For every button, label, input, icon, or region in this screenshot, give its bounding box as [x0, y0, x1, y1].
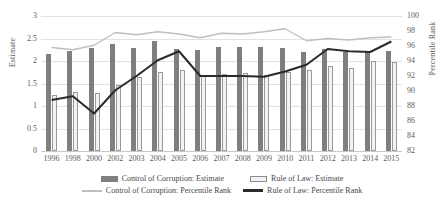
plot-area: 32.521.510.50100989694929088868482 [41, 16, 402, 151]
legend-item-cc-percentile[interactable]: Control of Corruption: Percentile Rank [82, 186, 231, 195]
legend-swatch-bar-light-icon [250, 176, 267, 182]
x-axis-tick-label: 1996 [41, 154, 62, 163]
y-axis-left-tick: 3 [33, 12, 37, 20]
legend-row-1: Control of Corruption: Estimate Rule of … [101, 174, 344, 183]
x-axis-tick-label: 2013 [338, 154, 359, 163]
y-axis-left-tick: 0 [33, 147, 37, 155]
x-axis-tick-label: 2011 [296, 154, 317, 163]
legend-row-2: Control of Corruption: Percentile Rank R… [82, 186, 362, 195]
x-axis-tick-label: 2008 [232, 154, 253, 163]
y-axis-right-tick: 98 [407, 27, 415, 35]
chart-container: Estimate Percentile Rank 32.521.510.5010… [0, 0, 444, 222]
x-axis-tick-label: 2014 [360, 154, 381, 163]
legend-label-rol-estimate: Rule of Law: Estimate [271, 174, 343, 183]
x-axis-tick-label: 2012 [317, 154, 338, 163]
y-axis-right-tick: 94 [407, 57, 415, 65]
x-axis-tick-label: 2006 [190, 154, 211, 163]
line-series [52, 29, 392, 50]
x-axis-tick-label: 2010 [275, 154, 296, 163]
y-axis-right-title: Percentile Rank [428, 11, 437, 87]
x-axis-tick-label: 2000 [83, 154, 104, 163]
legend-label-cc-percentile: Control of Corruption: Percentile Rank [106, 186, 231, 195]
legend-swatch-line-dark-icon [243, 189, 263, 192]
y-axis-right-tick: 90 [407, 87, 415, 95]
y-axis-left-tick: 1.5 [27, 80, 37, 88]
legend-item-rol-percentile[interactable]: Rule of Law: Percentile Rank [243, 186, 362, 195]
legend-label-cc-estimate: Control of Corruption: Estimate [122, 174, 224, 183]
y-axis-left-tick: 2 [33, 57, 37, 65]
y-axis-right-tick: 84 [407, 132, 415, 140]
y-axis-left-tick: 0.5 [27, 125, 37, 133]
y-axis-right-tick: 100 [407, 12, 419, 20]
y-axis-right-tick: 92 [407, 72, 415, 80]
gridline [41, 151, 402, 152]
y-axis-right-tick: 88 [407, 102, 415, 110]
y-axis-left-title: Estimate [8, 23, 17, 83]
legend-swatch-line-light-icon [82, 190, 102, 192]
legend-label-rol-percentile: Rule of Law: Percentile Rank [267, 186, 362, 195]
chart-legend: Control of Corruption: Estimate Rule of … [0, 174, 444, 195]
x-axis-tick-label: 1998 [62, 154, 83, 163]
x-axis-tick-label: 2007 [211, 154, 232, 163]
x-axis-tick-label: 2003 [126, 154, 147, 163]
y-axis-left-tick: 2.5 [27, 35, 37, 43]
legend-item-cc-estimate[interactable]: Control of Corruption: Estimate [101, 174, 224, 183]
line-series-layer [41, 16, 402, 151]
y-axis-right-tick: 82 [407, 147, 415, 155]
legend-swatch-bar-dark-icon [101, 176, 118, 182]
line-series [52, 42, 392, 114]
x-axis-tick-label: 2005 [168, 154, 189, 163]
x-axis-tick-label: 2002 [105, 154, 126, 163]
legend-item-rol-estimate[interactable]: Rule of Law: Estimate [250, 174, 343, 183]
y-axis-right-tick: 86 [407, 117, 415, 125]
y-axis-right-tick: 96 [407, 42, 415, 50]
x-axis-labels: 1996199820002002200320042005200620072008… [41, 154, 402, 163]
y-axis-left-tick: 1 [33, 102, 37, 110]
x-axis-tick-label: 2004 [147, 154, 168, 163]
x-axis-tick-label: 2015 [381, 154, 402, 163]
x-axis-tick-label: 2009 [253, 154, 274, 163]
